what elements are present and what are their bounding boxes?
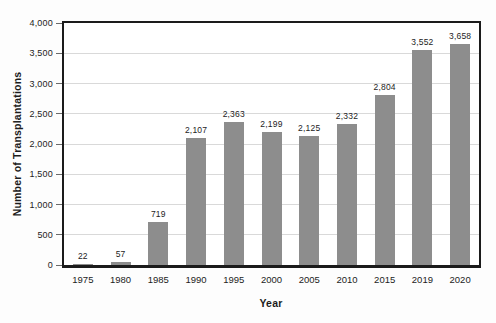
y-axis-tick bbox=[56, 144, 62, 145]
bar-value-label-2000: 2,199 bbox=[260, 119, 282, 129]
bar-2005 bbox=[299, 136, 319, 265]
x-axis-tick-label-1985: 1985 bbox=[148, 274, 169, 285]
y-axis-tick-label: 500 bbox=[37, 230, 53, 240]
y-axis-tick-label: 3,000 bbox=[29, 79, 53, 89]
y-axis-tick bbox=[56, 174, 62, 175]
x-axis-tick-label-1975: 1975 bbox=[72, 274, 93, 285]
bar-2015 bbox=[375, 95, 395, 265]
bar-chart-figure: Number of Transplantations 05001,0001,50… bbox=[0, 0, 496, 323]
y-axis-tick bbox=[56, 23, 62, 24]
bar-2010 bbox=[337, 124, 357, 265]
x-axis-tick-label-2019: 2019 bbox=[412, 274, 433, 285]
y-axis-tick bbox=[56, 204, 62, 205]
y-axis-tick bbox=[56, 83, 62, 84]
y-axis-tick-label: 2,500 bbox=[29, 109, 53, 119]
bar-1980 bbox=[111, 262, 131, 265]
bar-1975 bbox=[73, 264, 93, 265]
bar-2000 bbox=[262, 132, 282, 265]
x-axis-tick-label-1995: 1995 bbox=[223, 274, 244, 285]
y-axis-title: Number of Transplantations bbox=[11, 72, 23, 217]
y-axis-tick-label: 2,000 bbox=[29, 139, 53, 149]
y-axis-tick-label: 1,000 bbox=[29, 200, 53, 210]
y-axis-tick bbox=[56, 53, 62, 54]
bar-2019 bbox=[412, 50, 432, 265]
bar-value-label-2010: 2,332 bbox=[336, 111, 358, 121]
bar-value-label-2005: 2,125 bbox=[298, 123, 320, 133]
bar-value-label-2020: 3,658 bbox=[449, 31, 471, 41]
y-axis-tick-label: 1,500 bbox=[29, 169, 53, 179]
y-axis-tick-label: 4,000 bbox=[29, 18, 53, 28]
bar-value-label-2015: 2,804 bbox=[374, 82, 396, 92]
bar-2020 bbox=[450, 44, 470, 265]
x-axis-tick-label-2010: 2010 bbox=[336, 274, 357, 285]
y-axis-tick bbox=[56, 113, 62, 114]
x-axis-tick-label-2005: 2005 bbox=[299, 274, 320, 285]
x-axis-tick-label-1990: 1990 bbox=[185, 274, 206, 285]
bar-value-label-1975: 22 bbox=[78, 251, 88, 261]
x-axis-tick-label-2000: 2000 bbox=[261, 274, 282, 285]
bar-value-label-1985: 719 bbox=[151, 209, 166, 219]
bar-1990 bbox=[186, 138, 206, 265]
y-axis-tick bbox=[56, 265, 62, 266]
x-axis-tick-label-2020: 2020 bbox=[450, 274, 471, 285]
bar-value-label-1995: 2,363 bbox=[223, 109, 245, 119]
x-axis-tick-label-1980: 1980 bbox=[110, 274, 131, 285]
plot-area: 05001,0001,5002,0002,5003,0003,5004,0002… bbox=[62, 21, 481, 268]
bar-value-label-1990: 2,107 bbox=[185, 125, 207, 135]
bar-value-label-1980: 57 bbox=[116, 249, 126, 259]
y-axis-tick-label: 3,500 bbox=[29, 48, 53, 58]
x-axis-tick-label-2015: 2015 bbox=[374, 274, 395, 285]
y-axis-tick bbox=[56, 234, 62, 235]
y-axis-tick-label: 0 bbox=[48, 260, 53, 270]
x-axis-title: Year bbox=[260, 297, 283, 309]
bar-1995 bbox=[224, 122, 244, 265]
bar-1985 bbox=[148, 222, 168, 265]
bar-value-label-2019: 3,552 bbox=[411, 37, 433, 47]
